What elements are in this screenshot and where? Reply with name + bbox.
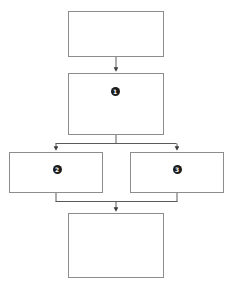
step-marker-2: 2 <box>53 165 62 174</box>
bottom-box[interactable] <box>68 213 164 278</box>
step-one-box[interactable] <box>68 73 164 135</box>
connector-merge-bottom <box>56 193 178 210</box>
flowchart-diagram: 1 2 3 <box>0 0 234 291</box>
top-box[interactable] <box>68 11 164 57</box>
step-marker-1: 1 <box>111 87 120 96</box>
connector-step1-fork <box>56 135 178 149</box>
step-marker-3: 3 <box>173 165 182 174</box>
